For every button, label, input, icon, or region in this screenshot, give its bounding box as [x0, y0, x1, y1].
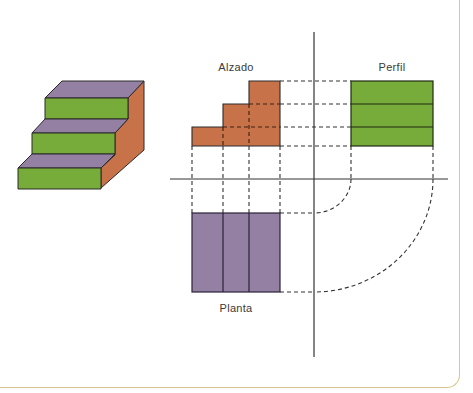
isometric-staircase [18, 81, 144, 189]
stair-bottom-tread [18, 154, 115, 168]
profile-view-shape [351, 81, 433, 146]
stair-middle-riser [32, 133, 115, 154]
elevation-view-shape [192, 81, 280, 146]
stair-top-tread [45, 81, 144, 98]
elevation-label: Alzado [218, 61, 253, 73]
stair-bottom-riser [18, 168, 101, 189]
plan-label: Planta [220, 302, 254, 314]
stair-middle-tread [32, 119, 128, 133]
stair-top-riser [45, 98, 128, 119]
profile-label: Perfil [379, 61, 406, 73]
small-transfer-arc [314, 179, 351, 213]
large-transfer-arc [314, 179, 433, 292]
plan-view-shape [192, 213, 280, 292]
orthographic-projection-diagram: Alzado Perfil Planta [0, 0, 473, 393]
